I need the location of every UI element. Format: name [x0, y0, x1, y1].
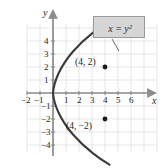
y-tick-label-4: 4: [44, 37, 49, 46]
y-axis-label: y: [43, 8, 47, 18]
x-axis-label: x: [152, 96, 156, 106]
x-tick-label-2: 2: [77, 96, 82, 105]
y-tick-label-3: 3: [44, 50, 49, 59]
equation-callout-box: x = y²: [93, 16, 145, 38]
x-tick-label-3: 3: [90, 96, 95, 105]
y-tick-label--4: −4: [41, 141, 51, 150]
parabola-figure: −2 −1 1 2 3 4 5 6 4 3 2 1 −1 −2 −3 −4 y …: [0, 0, 167, 168]
data-point-lower: [103, 117, 108, 122]
y-tick-label--2: −2: [41, 115, 51, 124]
y-tick-label-1: 1: [44, 76, 49, 85]
x-tick-label--2: −2: [21, 96, 31, 105]
y-tick-label-2: 2: [44, 63, 49, 72]
point-label-upper: (4, 2): [75, 58, 96, 68]
x-tick-label-1: 1: [64, 96, 69, 105]
x-tick-label-4: 4: [103, 96, 108, 105]
y-tick-label--3: −3: [41, 128, 51, 137]
x-tick-label-6: 6: [129, 96, 134, 105]
point-label-lower: (4, −2): [66, 122, 92, 132]
equation-label: x = y²: [94, 17, 146, 39]
x-tick-label-5: 5: [116, 96, 121, 105]
data-point-upper: [103, 65, 108, 70]
y-axis-arrow: [50, 11, 57, 18]
y-tick-label--1: −1: [41, 102, 51, 111]
